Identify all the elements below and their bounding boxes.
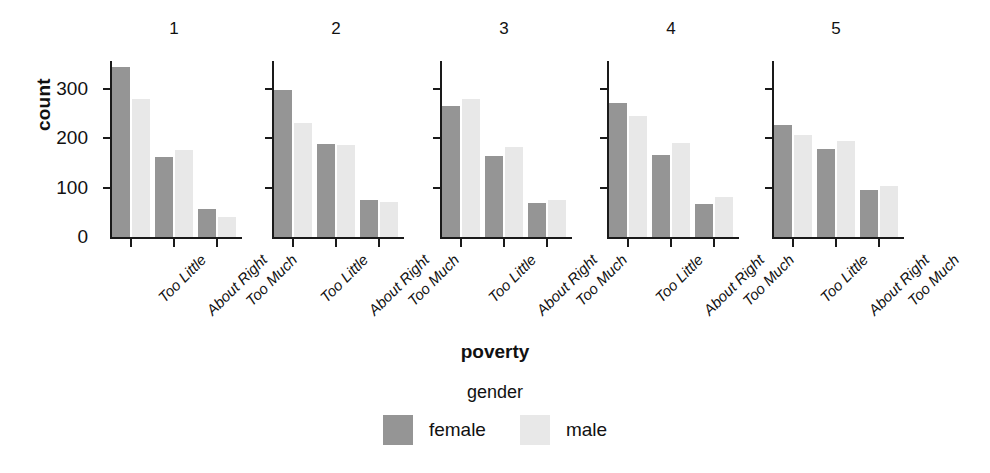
- legend-label: male: [566, 419, 607, 441]
- bar-female: [198, 209, 216, 237]
- y-tick-mark: [765, 187, 773, 189]
- x-tick-label: Too Little: [155, 251, 210, 306]
- y-tick-mark: [103, 137, 111, 139]
- legend-title: gender: [0, 382, 990, 403]
- x-tick-mark: [503, 239, 505, 247]
- facet-title: 4: [607, 20, 735, 37]
- facet-title: 2: [272, 20, 400, 37]
- bar-female: [317, 144, 335, 237]
- bar-male: [462, 99, 480, 237]
- x-tick-label: Too Little: [317, 251, 372, 306]
- y-tick-mark: [265, 137, 273, 139]
- facet-title: 1: [110, 20, 238, 37]
- x-tick-mark: [627, 239, 629, 247]
- legend-swatch-male: [520, 415, 550, 445]
- bar-male: [132, 99, 150, 237]
- facet-title: 3: [440, 20, 568, 37]
- x-tick-label: Too Little: [652, 251, 707, 306]
- bar-female: [274, 90, 292, 237]
- x-tick-mark: [878, 239, 880, 247]
- legend-swatch-female: [383, 415, 413, 445]
- bar-female: [817, 149, 835, 237]
- legend-item-female[interactable]: female: [383, 415, 486, 445]
- bar-female: [652, 155, 670, 237]
- y-tick-mark: [600, 187, 608, 189]
- y-tick-mark: [433, 88, 441, 90]
- chart-figure: count 0100200300 1Too LittleAbout RightT…: [0, 0, 990, 473]
- x-tick-mark: [130, 239, 132, 247]
- x-tick-mark: [173, 239, 175, 247]
- bar-female: [485, 156, 503, 237]
- x-tick-label: Too Little: [485, 251, 540, 306]
- x-tick-mark: [460, 239, 462, 247]
- x-tick-label: Too Little: [817, 251, 872, 306]
- bar-male: [794, 135, 812, 237]
- bar-male: [505, 147, 523, 237]
- bar-female: [860, 190, 878, 237]
- y-tick-mark: [765, 137, 773, 139]
- y-tick-mark: [265, 187, 273, 189]
- bar-male: [837, 141, 855, 237]
- y-tick-mark: [765, 88, 773, 90]
- x-axis-title: poverty: [0, 341, 990, 363]
- bar-female: [609, 103, 627, 237]
- bar-female: [528, 203, 546, 237]
- y-tick-mark: [265, 88, 273, 90]
- legend-label: female: [429, 419, 486, 441]
- y-tick-mark: [103, 187, 111, 189]
- legend-item-male[interactable]: male: [520, 415, 607, 445]
- y-tick-mark: [600, 88, 608, 90]
- x-tick-mark: [216, 239, 218, 247]
- x-tick-mark: [546, 239, 548, 247]
- y-tick-mark: [433, 137, 441, 139]
- bar-female: [112, 67, 130, 237]
- bar-female: [360, 200, 378, 237]
- bar-male: [672, 143, 690, 237]
- y-tick-mark: [600, 137, 608, 139]
- x-tick-mark: [670, 239, 672, 247]
- y-tick-mark: [103, 88, 111, 90]
- x-tick-mark: [378, 239, 380, 247]
- bar-female: [442, 106, 460, 237]
- legend: femalemale: [0, 415, 990, 445]
- facet-title: 5: [772, 20, 900, 37]
- x-tick-mark: [792, 239, 794, 247]
- bar-female: [774, 125, 792, 237]
- bar-male: [175, 150, 193, 237]
- bar-male: [880, 186, 898, 237]
- bar-male: [629, 116, 647, 237]
- bar-female: [155, 157, 173, 237]
- y-tick-mark: [433, 187, 441, 189]
- bar-male: [337, 145, 355, 237]
- x-tick-mark: [835, 239, 837, 247]
- x-tick-mark: [335, 239, 337, 247]
- bar-male: [294, 123, 312, 237]
- x-tick-mark: [713, 239, 715, 247]
- bar-female: [695, 204, 713, 237]
- x-tick-mark: [292, 239, 294, 247]
